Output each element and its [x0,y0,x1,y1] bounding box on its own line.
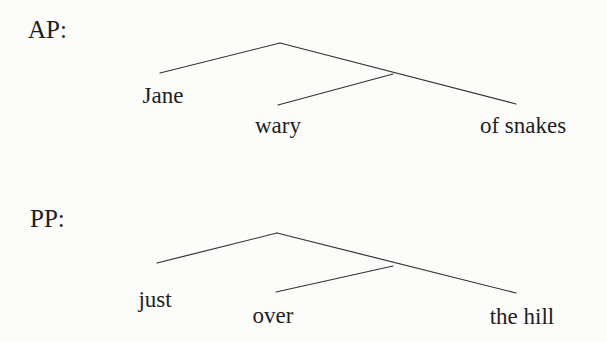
ap-tree-label: AP: [28,17,67,42]
ap-leaf-right: of snakes [480,114,566,137]
pp-tree-label: PP: [30,206,65,231]
ap-leaf-mid: wary [255,114,301,137]
pp-leaf-left: just [138,288,171,311]
pp-root-left-branch [157,233,277,263]
tree-branches-svg [0,0,607,342]
ap-root-left-branch [160,43,280,73]
pp-leaf-mid: over [253,304,294,327]
ap-mid-left-branch [278,74,393,105]
ap-leaf-left: Jane [143,84,184,107]
scanned-figure-page: AP: Jane wary of snakes PP: just over th… [0,0,607,342]
pp-mid-left-branch [276,266,393,292]
pp-leaf-right: the hill [490,305,555,328]
